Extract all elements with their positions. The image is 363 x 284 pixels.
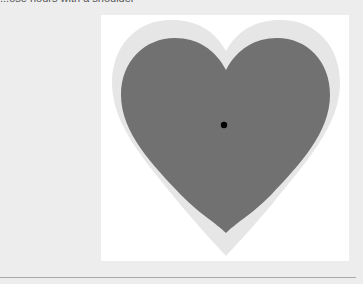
center-dot <box>221 122 227 128</box>
heart-panel <box>101 15 349 261</box>
horizontal-divider <box>0 277 356 278</box>
heart-graphic <box>101 15 349 261</box>
clipped-header-text: ...ose hours with a shoulder <box>0 0 135 4</box>
